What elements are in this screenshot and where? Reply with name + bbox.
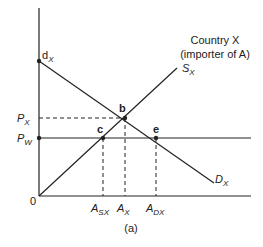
- point-c: [101, 136, 105, 140]
- pw-label: PW: [17, 132, 33, 147]
- supply-label: SX: [182, 62, 195, 77]
- point-b-label: b: [119, 102, 126, 114]
- px-label: PX: [17, 112, 30, 127]
- demand-curve: [39, 61, 214, 183]
- trade-diagram: Country X (importer of A) SX DX dX b c e…: [0, 0, 263, 247]
- point-e-label: e: [153, 123, 159, 135]
- ax-label: AX: [116, 202, 130, 217]
- demand-intercept-point: [37, 59, 41, 63]
- asx-label: ASX: [90, 202, 110, 217]
- pw-axis-point: [37, 136, 41, 140]
- figure-caption: (a): [124, 222, 137, 234]
- title-line1: Country X: [191, 34, 241, 46]
- origin-label: 0: [30, 195, 36, 207]
- demand-intercept-label: dX: [42, 49, 54, 64]
- point-c-label: c: [97, 123, 103, 135]
- point-b: [123, 116, 127, 120]
- demand-label: DX: [215, 173, 229, 188]
- adx-label: ADX: [145, 202, 165, 217]
- title-line2: (importer of A): [180, 48, 250, 60]
- point-e: [154, 136, 158, 140]
